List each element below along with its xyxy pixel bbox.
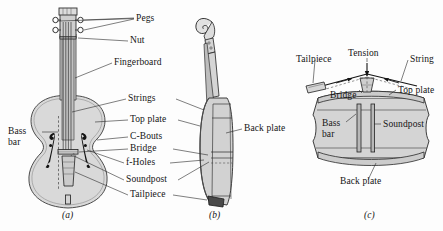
cross-section-soundpost [371,104,375,152]
violin-tailpiece [62,156,75,186]
violin-profile-view [170,18,242,207]
label-tension: Tension [348,48,379,59]
violin-nut [60,37,76,40]
violin-front-view [29,8,134,208]
caption-b: (b) [209,210,220,220]
label-pegs: Pegs [136,13,154,24]
violin-body-profile [200,98,233,205]
cross-section-bass-bar [357,104,361,152]
violin-bridge [58,150,78,155]
violin-pegbox [60,14,76,38]
label-string-c: String [410,54,434,65]
label-bridge: Bridge [130,143,156,154]
label-strings: Strings [128,93,156,104]
label-c-bouts: C-Bouts [130,131,162,142]
label-bass-bar: Bass bar [8,126,34,147]
label-soundpost: Soundpost [126,174,167,185]
label-fingerboard: Fingerboard [114,57,162,68]
label-tailpiece: Tailpiece [130,189,166,200]
caption-c: (c) [364,210,375,220]
label-f-holes: f-Holes [126,157,155,168]
label-bass-bar-c: Bass bar [322,118,348,139]
violin-figure: Pegs Nut Fingerboard Strings Top plate C… [0,0,443,231]
caption-a: (a) [62,210,73,220]
figure-artwork [0,0,443,231]
label-top-plate: Top plate [130,114,166,125]
label-back-plate-b: Back plate [244,123,285,134]
label-nut: Nut [130,35,145,46]
violin-end-button [66,195,71,204]
label-back-plate-c: Back plate [340,176,381,187]
label-soundpost-c: Soundpost [383,119,424,130]
label-top-plate-c: Top plate [398,85,434,96]
label-bridge-c: Bridge [330,90,356,101]
violin-scroll-block [59,8,77,15]
violin-fingerboard [62,30,74,140]
label-tailpiece-c: Tailpiece [296,54,332,65]
